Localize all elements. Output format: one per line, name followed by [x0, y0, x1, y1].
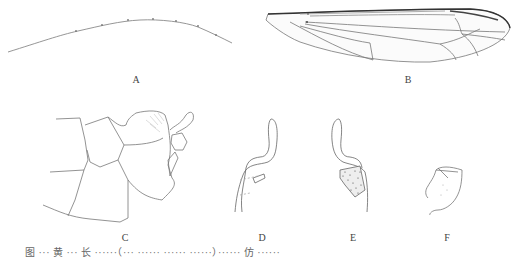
terminalia-drawing [43, 111, 193, 222]
wing-drawing [266, 9, 510, 62]
panel-label-e: E [350, 232, 356, 243]
antenna-drawing [8, 18, 232, 52]
panel-label-d: D [258, 232, 265, 243]
figure-caption: 图 ··· 黄 ··· 长 ······（··· ······ ······ ·… [25, 244, 280, 259]
panel-label-f: F [444, 232, 450, 243]
gonostylus-d-drawing [235, 119, 277, 212]
panel-label-a: A [132, 74, 139, 85]
structure-f-drawing [426, 167, 462, 215]
panel-label-c: C [122, 232, 129, 243]
gonostylus-e-drawing [332, 119, 368, 212]
panel-label-b: B [405, 74, 412, 85]
